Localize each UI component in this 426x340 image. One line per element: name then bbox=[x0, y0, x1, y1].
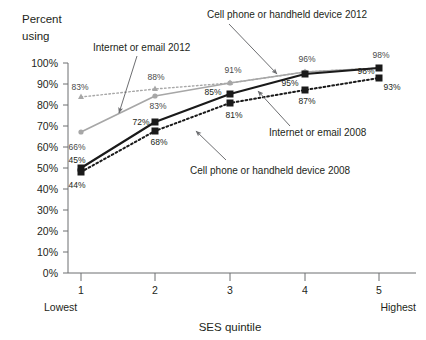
y-tick-label-80: 80% bbox=[37, 99, 58, 111]
marker-square bbox=[152, 119, 159, 126]
x-tick-label-1: 1 bbox=[78, 284, 84, 296]
x-tick-label-3: 3 bbox=[227, 284, 233, 296]
marker-circle bbox=[78, 129, 83, 134]
dp-label-internet2008-q5: 98% bbox=[357, 66, 374, 76]
marker-square bbox=[78, 169, 85, 176]
dp-label-cell2012-q1: 66% bbox=[68, 142, 85, 152]
dp-label-cell2008-q1: 44% bbox=[68, 180, 85, 190]
y-tick-label-60: 60% bbox=[37, 141, 58, 153]
dp-label-internet2012-q1: 83% bbox=[71, 82, 88, 92]
x-axis-label-lowest: Lowest bbox=[44, 301, 77, 313]
y-tick-label-30: 30% bbox=[37, 204, 58, 216]
dp-label-internet2008-q1: 45% bbox=[68, 155, 85, 165]
y-axis-title-line1: Percent bbox=[22, 13, 62, 25]
x-tick-label-4: 4 bbox=[302, 284, 308, 296]
marker-square bbox=[227, 100, 234, 107]
x-axis-label-highest: Highest bbox=[380, 301, 416, 313]
y-tick-label-100: 100% bbox=[31, 57, 58, 69]
dp-label-cell2008-q5: 93% bbox=[383, 82, 400, 92]
annotation-cell-phone-2008: Cell phone or handheld device 2008 bbox=[190, 165, 351, 176]
marker-square bbox=[302, 71, 309, 78]
y-tick-label-10: 10% bbox=[37, 246, 58, 258]
marker-circle bbox=[152, 93, 157, 98]
dp-label-internet2012-q2: 88% bbox=[147, 72, 164, 82]
marker-square bbox=[376, 75, 383, 82]
x-tick-label-5: 5 bbox=[376, 284, 382, 296]
dp-label-cell2012-q2: 83% bbox=[149, 101, 166, 111]
dp-label-cell2008-q3: 81% bbox=[225, 110, 242, 120]
dp-label-cell2008-q4: 87% bbox=[298, 96, 315, 106]
annotation-internet-email-2008: Internet or email 2008 bbox=[269, 127, 367, 138]
marker-circle bbox=[227, 80, 232, 85]
y-axis-title-line2: using bbox=[22, 30, 50, 42]
marker-square bbox=[152, 128, 159, 135]
chart-svg: Percent using 100% 90% 80% 70% 60% 50% 4… bbox=[0, 0, 426, 340]
x-axis-title: SES quintile bbox=[199, 321, 262, 333]
annotation-internet-email-2012: Internet or email 2012 bbox=[93, 42, 191, 53]
marker-square bbox=[302, 87, 309, 94]
y-tick-label-90: 90% bbox=[37, 78, 58, 90]
dp-label-internet2008-q3: 85% bbox=[204, 87, 221, 97]
dp-label-internet2012-q4: 96% bbox=[298, 54, 315, 64]
dp-label-cell2008-q2: 68% bbox=[150, 137, 167, 147]
y-tick-label-20: 20% bbox=[37, 225, 58, 237]
marker-square bbox=[227, 91, 234, 98]
marker-square bbox=[376, 65, 383, 72]
x-tick-label-2: 2 bbox=[152, 284, 158, 296]
y-tick-label-70: 70% bbox=[37, 120, 58, 132]
ses-quintile-technology-use-chart: Percent using 100% 90% 80% 70% 60% 50% 4… bbox=[0, 0, 426, 340]
y-tick-label-0: 0% bbox=[43, 267, 58, 279]
y-tick-label-50: 50% bbox=[37, 162, 58, 174]
dp-label-internet2008-q4: 95% bbox=[281, 78, 298, 88]
annotation-cell-phone-2012: Cell phone or handheld device 2012 bbox=[207, 9, 368, 20]
dp-label-internet2008-q2: 72% bbox=[132, 117, 149, 127]
dp-label-internet2012-q3: 91% bbox=[224, 65, 241, 75]
y-tick-label-40: 40% bbox=[37, 183, 58, 195]
dp-label-internet2012-q5: 98% bbox=[372, 50, 389, 60]
